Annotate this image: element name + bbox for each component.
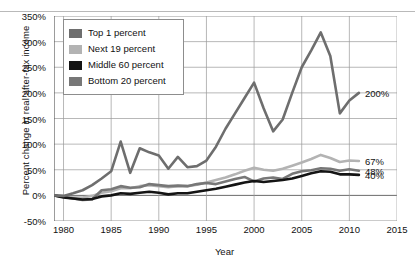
x-tick-label: 1995 [196, 224, 217, 235]
x-tick-label: 2015 [386, 224, 407, 235]
top-divider [0, 11, 415, 12]
legend-item[interactable]: Top 1 percent [69, 25, 178, 41]
y-tick-label: 250% [2, 62, 46, 73]
y-tick-label: 100% [2, 139, 46, 150]
x-tick-label: 1980 [53, 224, 74, 235]
y-tick-label: 350% [2, 11, 46, 22]
chart-legend: Top 1 percentNext 19 percentMiddle 60 pe… [63, 19, 184, 95]
x-axis-tick-labels: 19801985199019952000200520102015 [0, 224, 415, 238]
legend-item-label: Bottom 20 percent [88, 76, 166, 86]
x-tick-label: 2000 [244, 224, 265, 235]
x-tick-label: 1985 [101, 224, 122, 235]
legend-swatch-icon [69, 61, 82, 70]
y-tick-label: 200% [2, 87, 46, 98]
y-tick-label: 50% [2, 164, 46, 175]
legend-item-label: Top 1 percent [88, 28, 146, 38]
series-end-label: 48% [365, 165, 384, 176]
x-tick-label: 1990 [148, 224, 169, 235]
legend-item[interactable]: Middle 60 percent [69, 57, 178, 73]
x-axis-title: Year [52, 246, 397, 257]
legend-swatch-icon [69, 29, 82, 38]
legend-swatch-icon [69, 45, 82, 54]
legend-item-label: Middle 60 percent [88, 60, 164, 70]
x-tick-label: 2005 [291, 224, 312, 235]
chart-container: Percent change in real after-tax income … [0, 0, 415, 265]
series-end-label: 200% [365, 87, 389, 98]
legend-swatch-icon [69, 77, 82, 86]
legend-item-label: Next 19 percent [88, 44, 155, 54]
x-tick-label: 2010 [339, 224, 360, 235]
y-tick-label: 150% [2, 113, 46, 124]
legend-item[interactable]: Next 19 percent [69, 41, 178, 57]
y-tick-label: 300% [2, 36, 46, 47]
y-tick-label: 0% [2, 190, 46, 201]
legend-item[interactable]: Bottom 20 percent [69, 73, 178, 89]
